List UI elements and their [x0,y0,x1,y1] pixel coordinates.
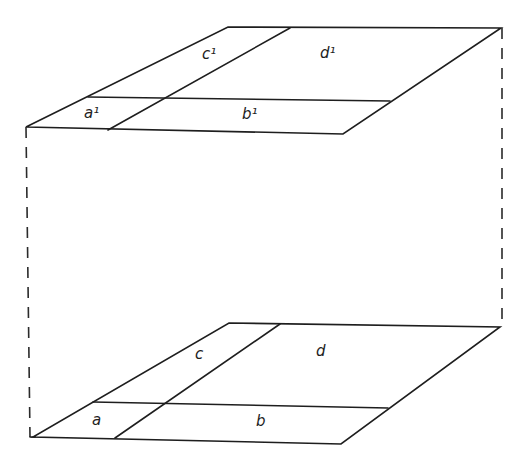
top-plane-horizontal-divider [88,97,390,101]
top-plane: a¹ b¹ c¹ d¹ [26,27,501,134]
label-c-prime: c¹ [202,45,216,63]
left-dashed-projection [26,127,30,437]
bottom-plane-outline [33,323,500,444]
bottom-plane-horizontal-divider [93,402,388,408]
bottom-plane: a b c d [30,323,500,444]
label-c: c [195,345,204,363]
label-a-prime: a¹ [84,104,99,122]
label-d-prime: d¹ [320,44,336,62]
projection-lines [26,28,502,437]
label-a: a [92,411,101,429]
parallel-planes-diagram: a¹ b¹ c¹ d¹ a b c d [0,0,524,469]
label-b: b [256,412,266,430]
top-plane-diagonal-divider [108,28,290,130]
label-d: d [316,342,326,360]
label-b-prime: b¹ [242,105,258,123]
